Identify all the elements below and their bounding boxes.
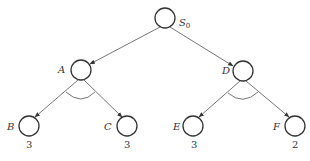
node-b: B 3 (6, 116, 39, 150)
edge-a-c (84, 80, 122, 117)
edge-s0-d (170, 27, 233, 66)
node-c-label: C (104, 121, 112, 132)
node-d: D (221, 61, 253, 81)
edge-a-b (35, 80, 78, 117)
node-e-label: E (172, 121, 181, 132)
node-a-label: A (57, 64, 65, 75)
node-f-label: F (272, 121, 281, 132)
node-s0-label: S0 (179, 17, 190, 30)
node-a: A (57, 60, 91, 80)
node-f-value: 2 (292, 139, 298, 150)
node-e: E 3 (172, 116, 203, 150)
node-b-value: 3 (26, 139, 32, 150)
edge-d-f (246, 81, 289, 117)
node-f: F 2 (272, 116, 305, 150)
node-e-value: 3 (191, 139, 197, 150)
node-d-label: D (221, 65, 230, 76)
node-b-label: B (6, 121, 14, 132)
edge-s0-a (90, 27, 160, 64)
and-or-tree-diagram: S0 A D B 3 C 3 E 3 F 2 (0, 0, 310, 161)
and-arc-a (66, 92, 95, 99)
node-s0: S0 (155, 8, 190, 30)
node-c-value: 3 (124, 139, 130, 150)
node-c: C 3 (104, 116, 137, 150)
edge-d-e (199, 81, 240, 117)
and-arc-d (228, 92, 258, 99)
